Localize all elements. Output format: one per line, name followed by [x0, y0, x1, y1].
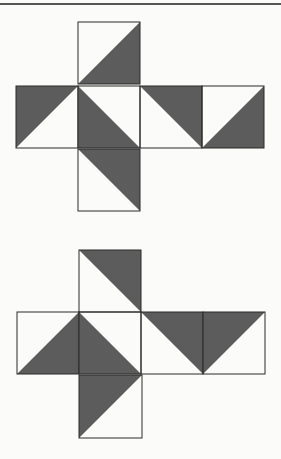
cube-nets-figure [0, 0, 281, 459]
shaded-triangle [78, 149, 140, 211]
shaded-triangle [16, 86, 78, 148]
shaded-triangle [141, 312, 203, 374]
shaded-triangle [17, 312, 79, 374]
shaded-triangle [79, 312, 141, 374]
shaded-triangle [203, 312, 265, 374]
cube-net-1 [16, 22, 264, 211]
shaded-triangle [78, 22, 140, 84]
shaded-triangle [140, 86, 202, 148]
shaded-triangle [79, 375, 142, 438]
shaded-triangle [79, 250, 141, 312]
shaded-triangle [78, 86, 140, 148]
cube-net-2 [17, 250, 265, 438]
shaded-triangle [202, 86, 264, 148]
